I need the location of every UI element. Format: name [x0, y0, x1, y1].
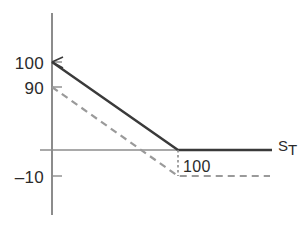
chart-canvas: 100 90 –10 100 ST — [0, 0, 306, 229]
x-axis-name-subscript: T — [288, 141, 297, 158]
y-tick-label-90: 90 — [24, 79, 44, 98]
series-short-call-payoff — [52, 62, 272, 150]
y-tick-label-100: 100 — [15, 54, 44, 73]
x-axis-name: ST — [278, 137, 297, 158]
series-short-call-profit — [52, 87, 270, 176]
y-tick-label-minus10: –10 — [15, 168, 44, 187]
strike-annotation-label: 100 — [183, 158, 211, 175]
payoff-diagram: 100 90 –10 100 ST — [0, 0, 306, 229]
x-axis-name-main: S — [278, 137, 288, 154]
